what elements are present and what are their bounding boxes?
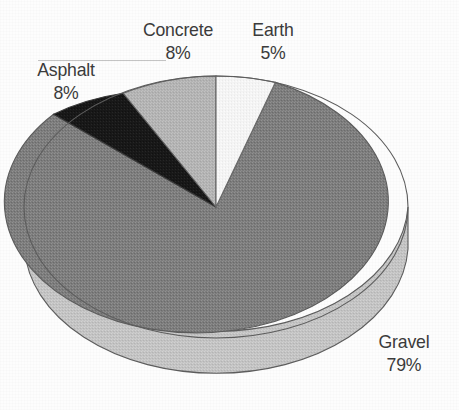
pie-chart-figure: Asphalt 8% Concrete 8% Earth 5% Gravel 7… bbox=[0, 0, 459, 410]
slice-label-asphalt-name: Asphalt bbox=[14, 58, 118, 81]
pie-top-surface bbox=[4, 76, 388, 333]
slice-label-concrete-name: Concrete bbox=[126, 18, 230, 41]
slice-label-gravel: Gravel 79% bbox=[359, 330, 448, 376]
slice-label-concrete: Concrete 8% bbox=[126, 18, 230, 64]
slice-label-gravel-name: Gravel bbox=[359, 330, 448, 353]
slice-label-earth: Earth 5% bbox=[231, 18, 315, 64]
slice-label-gravel-value: 79% bbox=[359, 353, 448, 376]
slice-label-concrete-value: 8% bbox=[126, 41, 230, 64]
slice-label-earth-value: 5% bbox=[231, 41, 315, 64]
slice-label-asphalt: Asphalt 8% bbox=[14, 58, 118, 104]
slice-label-asphalt-value: 8% bbox=[14, 81, 118, 104]
slice-label-earth-name: Earth bbox=[231, 18, 315, 41]
